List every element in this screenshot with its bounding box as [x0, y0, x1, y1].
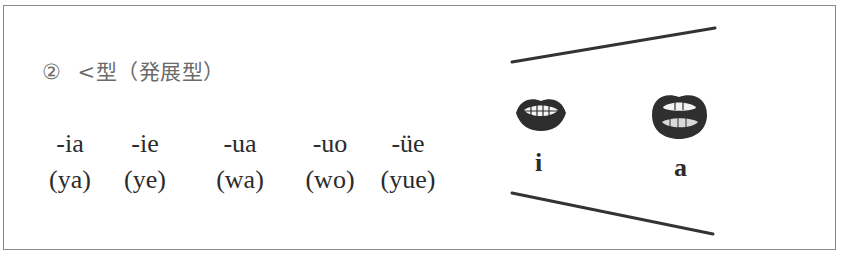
spelling-label: (wa) [190, 162, 290, 198]
mouth-label-a: a [674, 155, 687, 181]
section-heading: ②<型（発展型） [42, 55, 225, 85]
final-column-ie: -ie (ye) [95, 126, 195, 198]
final-label: -ie [95, 126, 195, 162]
spelling-label: (yue) [358, 162, 458, 198]
final-label: -ua [190, 126, 290, 162]
spelling-label: (ye) [95, 162, 195, 198]
section-number: ② [42, 60, 62, 84]
final-column-ua: -ua (wa) [190, 126, 290, 198]
final-column-ue: -üe (yue) [358, 126, 458, 198]
mouth-label-i: i [535, 150, 542, 176]
final-label: -üe [358, 126, 458, 162]
section-title: <型（発展型） [78, 60, 225, 84]
